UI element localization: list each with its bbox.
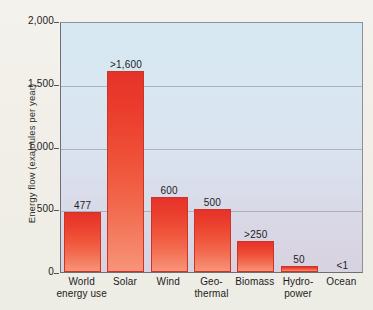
bar-series: 477>1,600600500>25050<1 [61,23,362,272]
bar-value-label: >1,600 [86,59,166,70]
bar[interactable] [107,71,144,272]
y-tick-mark [54,22,59,23]
bar[interactable] [194,209,231,272]
y-tick-label: 1,000 [8,141,54,152]
plot-area: 477>1,600600500>25050<1 [60,22,363,273]
bar-value-label: <1 [302,260,373,271]
x-axis-label: Ocean [312,276,371,288]
bar-value-label: 600 [129,185,209,196]
y-tick-label: 0 [8,266,54,277]
bar-chart: Energy flow (exajoules per year) 2,0001,… [0,0,373,310]
y-tick-mark [54,148,59,149]
y-tick-label: 1,500 [8,78,54,89]
y-axis-ticks: 2,0001,5001,0005000 [5,0,54,310]
y-tick-label: 2,000 [8,15,54,26]
x-axis-labels: Worldenergy useSolarWindGeo-thermalBioma… [60,276,363,310]
bar[interactable] [64,212,101,272]
bar-value-label: 500 [173,197,253,208]
bar-value-label: >250 [216,229,296,240]
y-tick-mark [54,273,59,274]
y-tick-mark [54,85,59,86]
